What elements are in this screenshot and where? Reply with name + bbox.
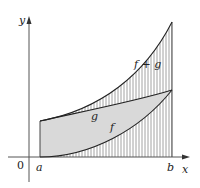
y-axis-arrow-icon bbox=[27, 16, 32, 24]
label-g: g bbox=[91, 110, 98, 123]
b-label: b bbox=[167, 161, 174, 174]
x-axis-arrow-icon bbox=[182, 155, 190, 160]
origin-label: 0 bbox=[17, 159, 24, 172]
x-axis-label: x bbox=[182, 163, 189, 176]
a-label: a bbox=[36, 161, 43, 174]
y-axis-label: y bbox=[18, 14, 26, 27]
label-f-plus-g: f + g bbox=[133, 58, 161, 71]
diagram-canvas: y x 0 a b f + g g f bbox=[0, 0, 200, 188]
